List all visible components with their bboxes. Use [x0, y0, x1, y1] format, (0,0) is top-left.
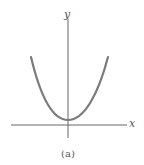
x-axis-label: x: [129, 118, 135, 129]
parabola-curve: [31, 57, 108, 120]
figure: y x (a): [0, 0, 144, 165]
y-axis-label: y: [64, 9, 70, 20]
plot-area: [0, 0, 144, 165]
figure-caption: (a): [0, 149, 136, 159]
